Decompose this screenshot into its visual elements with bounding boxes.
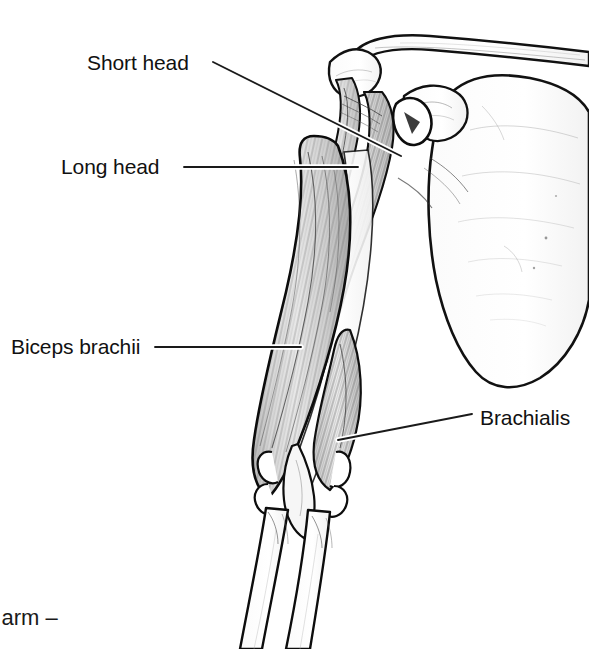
label-long-head: Long head [61, 156, 159, 177]
label-biceps-brachii: Biceps brachii [11, 336, 140, 357]
anatomy-illustration [0, 0, 589, 649]
coracoid-process [393, 98, 431, 145]
label-short-head: Short head [87, 52, 189, 73]
anatomy-figure: Short head Long head Biceps brachii Brac… [0, 0, 589, 649]
figure-caption-partial: r arm – [0, 607, 58, 629]
label-brachialis: Brachialis [480, 407, 570, 428]
